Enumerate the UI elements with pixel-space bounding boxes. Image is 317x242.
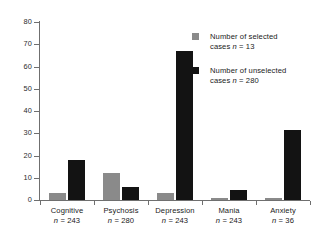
bar-chart: 01020304050607080 Cognitiven = 243Psycho…: [0, 0, 317, 242]
category-name: Anxiety: [256, 206, 310, 216]
y-tick-label: 50: [0, 85, 32, 92]
bar-anxiety-unselected: [284, 130, 301, 200]
y-tick-label: 20: [0, 152, 32, 159]
legend-selected-prefix: cases: [210, 42, 233, 51]
legend-unselected-prefix: cases: [210, 76, 233, 85]
category-count: n = 36: [256, 216, 310, 226]
x-tick-mark: [310, 201, 311, 205]
x-tick-mark: [202, 201, 203, 205]
category-count: n = 243: [40, 216, 94, 226]
category-label-anxiety: Anxietyn = 36: [256, 206, 310, 226]
bar-depression-selected: [157, 193, 174, 200]
legend-label-unselected: Number of unselected cases n = 280: [210, 66, 314, 86]
legend-selected-suffix: = 13: [237, 42, 255, 51]
category-name: Depression: [148, 206, 202, 216]
bar-anxiety-selected: [265, 198, 282, 200]
category-label-cognitive: Cognitiven = 243: [40, 206, 94, 226]
category-name: Mania: [202, 206, 256, 216]
category-count: n = 280: [94, 216, 148, 226]
x-tick-mark: [94, 201, 95, 205]
bar-psychosis-selected: [103, 173, 120, 200]
bar-cognitive-unselected: [68, 160, 85, 200]
legend-label-selected-line2: cases n = 13: [210, 42, 314, 52]
unselected-swatch-icon: [192, 67, 199, 74]
category-label-depression: Depressionn = 243: [148, 206, 202, 226]
y-tick-label: 30: [0, 129, 32, 136]
selected-swatch-icon: [192, 33, 199, 40]
legend-label-selected-line1: Number of selected: [210, 32, 314, 42]
category-label-psychosis: Psychosisn = 280: [94, 206, 148, 226]
y-tick-label: 10: [0, 174, 32, 181]
bar-mania-selected: [211, 198, 228, 200]
y-tick-label: 60: [0, 63, 32, 70]
category-count: n = 243: [148, 216, 202, 226]
bar-psychosis-unselected: [122, 187, 139, 200]
bar-cognitive-selected: [49, 193, 66, 200]
category-name: Psychosis: [94, 206, 148, 216]
y-tick-label: 0: [0, 196, 32, 203]
legend-label-unselected-line1: Number of unselected: [210, 66, 314, 76]
x-tick-mark: [148, 201, 149, 205]
legend-item-unselected: Number of unselected cases n = 280: [192, 66, 314, 86]
legend-label-unselected-line2: cases n = 280: [210, 76, 314, 86]
x-tick-mark: [256, 201, 257, 205]
x-axis-line: [39, 200, 310, 201]
category-name: Cognitive: [40, 206, 94, 216]
category-label-mania: Manian = 243: [202, 206, 256, 226]
x-tick-mark: [40, 201, 41, 205]
bar-depression-unselected: [176, 51, 193, 200]
bar-mania-unselected: [230, 190, 247, 200]
legend-item-selected: Number of selected cases n = 13: [192, 32, 314, 52]
y-tick-label: 70: [0, 40, 32, 47]
chart-legend: Number of selected cases n = 13 Number o…: [192, 32, 314, 100]
legend-label-selected: Number of selected cases n = 13: [210, 32, 314, 52]
y-tick-label: 80: [0, 18, 32, 25]
legend-unselected-suffix: = 280: [237, 76, 259, 85]
category-count: n = 243: [202, 216, 256, 226]
y-tick-label: 40: [0, 107, 32, 114]
